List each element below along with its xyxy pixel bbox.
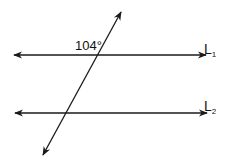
line-l2-subscript: 2	[212, 107, 216, 116]
angle-label: 104°	[75, 39, 102, 52]
diagram-canvas	[0, 0, 229, 162]
line-l2-name: L	[204, 98, 212, 114]
line-l2-label: L2	[204, 99, 216, 116]
line-l1-subscript: 1	[212, 50, 216, 59]
line-l1-name: L	[204, 41, 212, 57]
line-l1-label: L1	[204, 42, 216, 59]
transversal-line	[43, 12, 121, 155]
